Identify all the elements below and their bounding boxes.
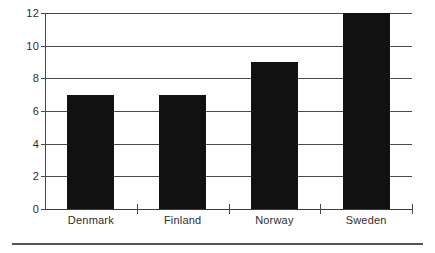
x-axis-label-finland: Finland — [137, 214, 229, 227]
bar-norway — [251, 62, 298, 209]
x-axis-tick-3 — [320, 204, 321, 214]
bar-finland — [159, 95, 206, 209]
x-axis-tick-2 — [229, 204, 230, 214]
x-axis-label-sweden: Sweden — [320, 214, 412, 227]
x-axis-tick-1 — [137, 204, 138, 214]
y-tick-label-0: 0 — [9, 204, 39, 215]
y-tick-label-12: 12 — [9, 8, 39, 19]
bottom-divider — [12, 243, 423, 245]
y-tick-label-6: 6 — [9, 106, 39, 117]
x-axis-tick-4 — [412, 204, 413, 214]
y-tick-label-10: 10 — [9, 40, 39, 51]
bar-sweden — [343, 13, 390, 209]
y-tick-label-8: 8 — [9, 73, 39, 84]
bar-chart-figure: 024681012 DenmarkFinlandNorwaySweden — [0, 0, 435, 253]
bar-denmark — [67, 95, 114, 209]
x-axis-label-norway: Norway — [229, 214, 321, 227]
plot-area — [45, 13, 412, 209]
y-tick-label-4: 4 — [9, 138, 39, 149]
x-axis-label-denmark: Denmark — [45, 214, 137, 227]
y-tick-label-2: 2 — [9, 171, 39, 182]
